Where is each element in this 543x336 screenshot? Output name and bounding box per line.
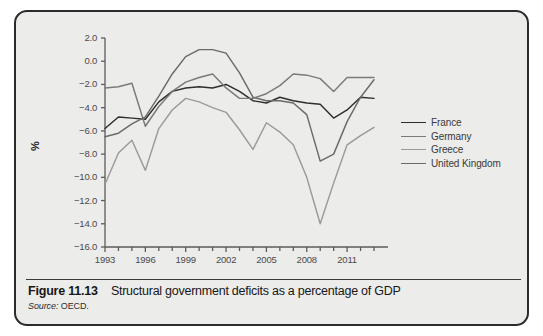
legend-item: Greece bbox=[401, 143, 501, 157]
caption-line: Figure 11.13 Structural government defic… bbox=[28, 284, 523, 298]
y-axis-tick-label: −4.0 bbox=[55, 102, 97, 113]
y-axis-tick-label: −10.0 bbox=[55, 171, 97, 182]
x-axis-tick-label: 2011 bbox=[327, 254, 367, 265]
legend-swatch bbox=[401, 163, 426, 164]
x-axis-tick-label: 1993 bbox=[85, 254, 125, 265]
y-axis-tick-label: −6.0 bbox=[55, 125, 97, 136]
x-axis-tick-label: 2002 bbox=[206, 254, 246, 265]
y-axis-tick-label: −8.0 bbox=[55, 148, 97, 159]
legend-item: France bbox=[401, 116, 501, 130]
legend-label: France bbox=[431, 117, 462, 128]
y-axis-tick-label: −12.0 bbox=[55, 195, 97, 206]
legend-swatch bbox=[401, 136, 426, 137]
legend-label: Greece bbox=[431, 144, 463, 155]
chart-legend: FranceGermanyGreeceUnited Kingdom bbox=[401, 116, 501, 170]
figure-number: Figure 11.13 bbox=[28, 284, 98, 298]
y-axis-tick-label: 2.0 bbox=[55, 32, 97, 43]
y-axis-tick-label: 0.0 bbox=[55, 55, 97, 66]
x-axis-tick-label: 2008 bbox=[287, 254, 327, 265]
y-axis-tick-label: −16.0 bbox=[55, 241, 97, 252]
x-axis-tick-label: 1996 bbox=[125, 254, 165, 265]
source-label: Source: bbox=[28, 301, 58, 311]
figure-panel: % 2.00.0−2.0−4.0−6.0−8.0−10.0−12.0−14.0−… bbox=[14, 10, 529, 326]
legend-label: United Kingdom bbox=[431, 158, 501, 169]
figure-title: Structural government deficits as a perc… bbox=[111, 284, 401, 298]
y-axis-tick-label: −14.0 bbox=[55, 218, 97, 229]
legend-item: Germany bbox=[401, 130, 501, 144]
legend-swatch bbox=[401, 122, 426, 123]
caption-block: Figure 11.13 Structural government defic… bbox=[28, 284, 523, 311]
x-axis-tick-label: 1999 bbox=[166, 254, 206, 265]
legend-swatch bbox=[401, 149, 426, 150]
legend-label: Germany bbox=[431, 131, 471, 142]
legend-item: United Kingdom bbox=[401, 157, 501, 171]
x-axis-tick-label: 2005 bbox=[246, 254, 286, 265]
source-value: OECD. bbox=[61, 301, 89, 311]
caption-divider bbox=[26, 279, 521, 280]
y-axis-tick-label: −2.0 bbox=[55, 78, 97, 89]
caption-source: Source: OECD. bbox=[28, 301, 523, 311]
